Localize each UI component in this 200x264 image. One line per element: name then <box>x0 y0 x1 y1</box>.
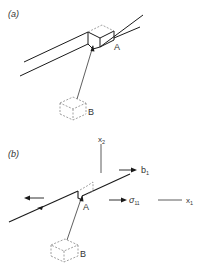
slab-upper-right-line <box>100 15 143 47</box>
burgers-vector-label: b1 <box>141 165 149 176</box>
point-a-label: A <box>114 42 120 52</box>
x2-axis-label: x2 <box>98 135 105 145</box>
dashed-box-top <box>88 25 114 32</box>
slip-line-left <box>9 191 78 222</box>
dislocation-diagram: (a) A B (b) x2 <box>0 0 200 264</box>
dashed-box-step <box>80 182 93 195</box>
stress-label: σ11 <box>129 195 140 206</box>
dashed-cube-b <box>60 97 86 120</box>
arrow-head-icon <box>131 168 137 173</box>
slab-lower-left-line <box>20 44 88 76</box>
x1-axis-label: x1 <box>186 196 193 206</box>
slab-upper-left-line <box>24 32 88 62</box>
point-b-label: B <box>88 107 94 117</box>
panel-b: (b) x2 b1 A σ11 x1 <box>8 135 193 262</box>
slab-lower-right-line <box>114 27 140 38</box>
arrow-b-to-a <box>67 196 82 240</box>
dashed-cube-b <box>51 239 78 262</box>
panel-b-label: (b) <box>8 149 19 159</box>
panel-a-label: (a) <box>8 9 19 19</box>
point-a-label: A <box>83 202 89 212</box>
arrow-head-icon <box>121 198 127 203</box>
panel-a: (a) A B <box>8 9 143 120</box>
arrow-b-to-a <box>77 46 93 99</box>
arrow-head-icon <box>24 196 30 201</box>
point-b-label: B <box>80 249 86 259</box>
slip-line-right <box>82 174 130 196</box>
